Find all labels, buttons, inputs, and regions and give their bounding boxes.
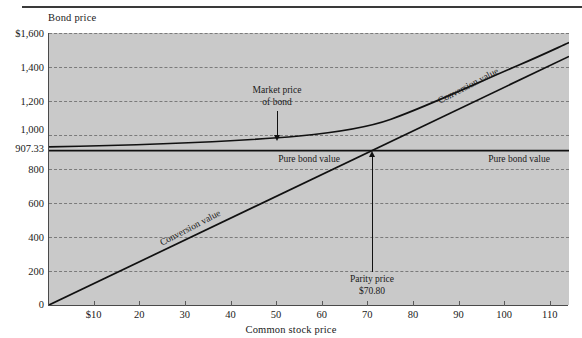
x-axis-title: Common stock price: [0, 324, 582, 335]
annotation-pure-bond-value-left-text: Pure bond value: [278, 154, 340, 164]
annotation-pure-bond-value-right: Pure bond value: [488, 154, 550, 166]
x-tick-label-60: 60: [316, 310, 327, 321]
y-tick-label-0: 0: [0, 300, 44, 311]
y-axis-title: Bond price: [48, 12, 96, 23]
annotation-market-price-of-bond: Market price of bond: [253, 85, 302, 109]
plot-area: Market price of bond Pure bond value Pur…: [48, 33, 569, 305]
x-tick-label-30: 30: [180, 310, 191, 321]
annotation-parity-price: Parity price $70.80: [350, 274, 394, 298]
x-tick-mark-100: [504, 301, 505, 306]
y-tick-label-600: 600: [0, 199, 44, 210]
plot-inner: Market price of bond Pure bond value Pur…: [49, 33, 569, 305]
market-price-arrow-shaft: [277, 111, 278, 137]
x-tick-mark-110: [550, 301, 551, 306]
x-tick-label-10: $10: [86, 310, 102, 321]
top-divider-rule: [22, 6, 582, 8]
x-tick-mark-80: [413, 301, 414, 306]
x-tick-mark-10: [94, 301, 95, 306]
annotation-market-price-line1: Market price: [253, 85, 302, 97]
annotation-parity-price-line1: Parity price: [350, 274, 394, 286]
y-tick-label-1000: 1,000: [0, 125, 44, 136]
y-tick-label-200: 200: [0, 267, 44, 278]
x-tick-mark-50: [276, 301, 277, 306]
x-tick-mark-40: [231, 301, 232, 306]
annotation-market-price-line2: of bond: [253, 97, 302, 109]
chart-figure: Bond price Market price: [0, 0, 582, 338]
parity-price-arrow-shaft: [372, 157, 373, 272]
y-tick-label-907-33: 907.33: [0, 144, 44, 155]
x-axis-line: [48, 305, 568, 306]
x-tick-mark-60: [322, 301, 323, 306]
x-tick-mark-90: [459, 301, 460, 306]
x-tick-label-80: 80: [408, 310, 419, 321]
x-tick-mark-30: [185, 301, 186, 306]
y-tick-label-1400: 1,400: [0, 63, 44, 74]
y-tick-label-1600: $1,600: [0, 29, 44, 40]
annotation-parity-price-line2: $70.80: [350, 286, 394, 298]
annotation-pure-bond-value-left: Pure bond value: [278, 154, 340, 166]
market-price-arrowhead-icon: [274, 135, 280, 141]
series-market-price-of-bond: [49, 43, 569, 147]
x-tick-mark-70: [367, 301, 368, 306]
annotation-pure-bond-value-right-text: Pure bond value: [488, 154, 550, 164]
x-tick-label-20: 20: [134, 310, 145, 321]
y-tick-label-400: 400: [0, 233, 44, 244]
parity-price-arrowhead-icon: [369, 151, 375, 157]
x-tick-label-90: 90: [453, 310, 464, 321]
x-tick-mark-20: [139, 301, 140, 306]
x-tick-label-40: 40: [225, 310, 236, 321]
x-tick-label-70: 70: [362, 310, 373, 321]
x-tick-label-50: 50: [271, 310, 282, 321]
x-tick-label-100: 100: [496, 310, 512, 321]
x-tick-label-110: 110: [542, 310, 557, 321]
y-tick-label-1200: 1,200: [0, 97, 44, 108]
series-conversion-value: [49, 56, 569, 305]
y-tick-label-800: 800: [0, 165, 44, 176]
